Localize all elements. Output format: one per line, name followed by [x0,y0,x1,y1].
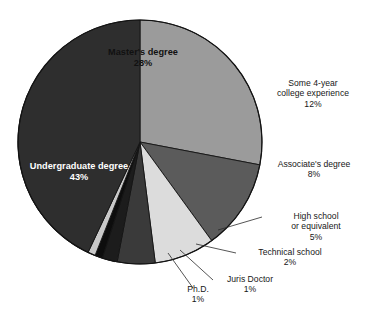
slice-label-high-school-percent: 5% [272,232,360,242]
slice-label-some-college-line2: college experience [265,88,361,98]
slice-label-high-school: High school or equivalent 5% [272,211,360,242]
slice-label-masters-percent: 28% [88,58,198,69]
slice-label-phd-percent: 1% [176,294,220,304]
leader-line-technical [196,244,236,253]
slice-label-some-college-percent: 12% [265,99,361,109]
slice-label-phd: Ph.D. 1% [176,284,220,305]
slice-label-some-college-line1: Some 4-year [288,78,337,88]
slice-label-associates: Associate's degree 8% [266,159,362,180]
slice-label-undergraduate-percent: 43% [14,172,144,183]
slice-label-technical: Technical school 2% [238,247,342,268]
slice-label-high-school-line1: High school [293,211,338,221]
slice-label-associates-text: Associate's degree [278,159,351,169]
slice-label-masters: Master's degree 28% [88,47,198,69]
slice-label-undergraduate: Undergraduate degree 43% [14,161,144,183]
slice-label-technical-percent: 2% [238,257,342,267]
slice-label-masters-text: Master's degree [108,47,178,57]
slice-label-associates-percent: 8% [266,169,362,179]
slice-label-some-college: Some 4-year college experience 12% [265,78,361,109]
pie-slice-masters-main [140,20,262,165]
slice-label-technical-text: Technical school [258,247,321,257]
slice-label-juris-doctor-percent: 1% [215,284,285,294]
slice-label-juris-doctor-text: Juris Doctor [227,274,273,284]
slice-label-phd-text: Ph.D. [187,284,209,294]
pie-chart: Master's degree 28% Undergraduate degree… [0,0,365,317]
slice-label-juris-doctor: Juris Doctor 1% [215,274,285,295]
slice-label-undergraduate-text: Undergraduate degree [30,161,128,171]
slice-label-high-school-line2: or equivalent [272,221,360,231]
leader-line-juris-doctor [180,250,213,280]
